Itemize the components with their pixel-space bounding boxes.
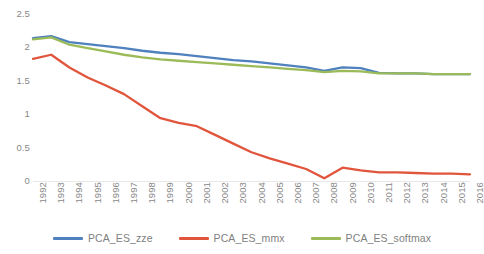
legend-item-pca-es-mmx[interactable]: PCA_ES_mmx [179, 232, 285, 244]
legend-swatch-icon [179, 237, 209, 240]
x-axis-tick-label: 2005 [275, 182, 285, 226]
y-axis-tick-label: 2.5 [2, 9, 30, 18]
legend-label: PCA_ES_zze [88, 232, 153, 244]
x-axis-tick-label: 2004 [257, 182, 267, 226]
x-axis-tick-label: 1999 [165, 182, 175, 226]
x-axis-tick-label: 2010 [366, 182, 376, 226]
legend-swatch-icon [311, 237, 341, 240]
x-axis-tick-label: 2008 [329, 182, 339, 226]
x-axis-tick-label: 1992 [38, 182, 48, 226]
y-axis: 2.521.510.50 [0, 0, 30, 200]
legend-swatch-icon [53, 237, 83, 240]
plot-area [33, 14, 470, 181]
x-axis-tick-label: 2012 [402, 182, 412, 226]
legend-label: PCA_ES_mmx [214, 232, 285, 244]
chart-legend: PCA_ES_zzePCA_ES_mmxPCA_ES_softmax [0, 232, 484, 244]
x-axis-tick-label: 2016 [475, 182, 484, 226]
x-axis-tick-label: 2001 [202, 182, 212, 226]
y-axis-tick-label: 1.5 [2, 76, 30, 85]
x-axis: 1992199319941995199619971998199920002001… [33, 186, 470, 230]
x-axis-tick-label: 2011 [384, 182, 394, 226]
x-axis-tick-label: 2015 [457, 182, 467, 226]
x-axis-tick-label: 2000 [184, 182, 194, 226]
series-lines [33, 14, 470, 181]
x-axis-tick-label: 1996 [111, 182, 121, 226]
series-line-pca-es-softmax [33, 37, 470, 74]
y-axis-tick-label: 0.5 [2, 143, 30, 152]
x-axis-tick-label: 2006 [293, 182, 303, 226]
x-axis-tick-label: 1993 [56, 182, 66, 226]
x-axis-tick-label: 1994 [74, 182, 84, 226]
x-axis-tick-label: 2007 [311, 182, 321, 226]
series-line-pca-es-zze [33, 36, 470, 74]
x-axis-tick-label: 1998 [147, 182, 157, 226]
legend-item-pca-es-zze[interactable]: PCA_ES_zze [53, 232, 153, 244]
x-axis-tick-label: 1995 [93, 182, 103, 226]
x-axis-tick-label: 2003 [238, 182, 248, 226]
legend-item-pca-es-softmax[interactable]: PCA_ES_softmax [311, 232, 431, 244]
x-axis-tick-label: 2009 [348, 182, 358, 226]
x-axis-tick-label: 1997 [129, 182, 139, 226]
x-axis-tick-label: 2013 [420, 182, 430, 226]
x-axis-tick-label: 2002 [220, 182, 230, 226]
x-axis-tick-label: 2014 [439, 182, 449, 226]
legend-label: PCA_ES_softmax [346, 232, 431, 244]
line-chart: 2.521.510.50 199219931994199519961997199… [0, 0, 484, 254]
y-axis-tick-label: 0 [2, 176, 30, 185]
y-axis-tick-label: 1 [2, 109, 30, 118]
y-axis-tick-label: 2 [2, 42, 30, 51]
